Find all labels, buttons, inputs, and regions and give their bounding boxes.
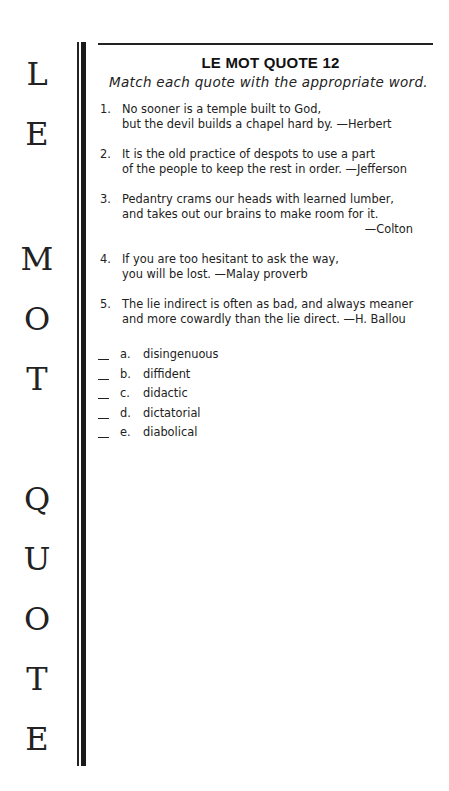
quote-number: 3. — [98, 192, 122, 237]
option-word: diffident — [143, 365, 190, 385]
option-letter: c. — [120, 384, 143, 404]
quote-item-3: 3. Pedantry crams our heads with learned… — [98, 192, 443, 237]
quote-line: If you are too hesitant to ask the way, — [122, 252, 443, 267]
quote-text: It is the old practice of despots to use… — [122, 147, 443, 177]
quote-line: It is the old practice of despots to use… — [122, 147, 443, 162]
instructions: Match each quote with the appropriate wo… — [94, 74, 443, 90]
answer-blank[interactable] — [98, 417, 109, 419]
option-word: disingenuous — [143, 345, 219, 365]
quote-line: No sooner is a temple built to God, — [122, 102, 443, 117]
quote-line: Pedantry crams our heads with learned lu… — [122, 192, 443, 207]
option-word: diabolical — [143, 423, 197, 443]
banner-letter-m: M — [0, 243, 74, 275]
quote-item-5: 5. The lie indirect is often as bad, and… — [98, 297, 443, 327]
option-a: a. disingenuous — [98, 345, 443, 365]
answer-blank[interactable] — [98, 378, 109, 380]
quote-number: 1. — [98, 102, 122, 132]
banner-letter-t: T — [0, 363, 74, 395]
option-d: d. dictatorial — [98, 404, 443, 424]
banner-letter-l: L — [0, 58, 74, 90]
banner-letter-u: U — [0, 543, 74, 575]
answer-blank[interactable] — [98, 397, 109, 399]
quote-attribution: —Colton — [122, 222, 443, 237]
banner-letter-q: Q — [0, 483, 74, 515]
vertical-divider-thick — [81, 42, 86, 766]
answer-blank[interactable] — [98, 436, 109, 438]
page-title: LE MOT QUOTE 12 — [98, 48, 443, 71]
option-letter: e. — [120, 423, 143, 443]
option-c: c. didactic — [98, 384, 443, 404]
quote-line: of the people to keep the rest in order.… — [122, 162, 443, 177]
quote-list: 1. No sooner is a temple built to God, b… — [98, 102, 443, 327]
option-e: e. diabolical — [98, 423, 443, 443]
banner-letter-t-2: T — [0, 663, 74, 695]
option-letter: d. — [120, 404, 143, 424]
vertical-divider-thin — [77, 42, 79, 766]
option-word: dictatorial — [143, 404, 201, 424]
top-horizontal-rule — [98, 43, 433, 45]
quote-line: and more cowardly than the lie direct. —… — [122, 312, 443, 327]
quote-item-2: 2. It is the old practice of despots to … — [98, 147, 443, 177]
answer-blank[interactable] — [98, 358, 109, 360]
banner-letter-o: O — [0, 303, 74, 335]
banner-letter-e-2: E — [0, 723, 74, 755]
banner-letter-o-2: O — [0, 603, 74, 635]
option-letter: b. — [120, 365, 143, 385]
quote-line: you will be lost. —Malay proverb — [122, 267, 443, 282]
quote-line: The lie indirect is often as bad, and al… — [122, 297, 443, 312]
banner-letter-e: E — [0, 118, 74, 150]
worksheet-content: LE MOT QUOTE 12 Match each quote with th… — [98, 48, 443, 443]
option-b: b. diffident — [98, 365, 443, 385]
quote-item-4: 4. If you are too hesitant to ask the wa… — [98, 252, 443, 282]
quote-line: and takes out our brains to make room fo… — [122, 207, 443, 222]
quote-number: 5. — [98, 297, 122, 327]
quote-number: 2. — [98, 147, 122, 177]
quote-text: No sooner is a temple built to God, but … — [122, 102, 443, 132]
quote-text: If you are too hesitant to ask the way, … — [122, 252, 443, 282]
quote-number: 4. — [98, 252, 122, 282]
option-letter: a. — [120, 345, 143, 365]
quote-text: The lie indirect is often as bad, and al… — [122, 297, 443, 327]
quote-text: Pedantry crams our heads with learned lu… — [122, 192, 443, 237]
answer-options: a. disingenuous b. diffident c. didactic… — [98, 345, 443, 443]
quote-item-1: 1. No sooner is a temple built to God, b… — [98, 102, 443, 132]
quote-line: but the devil builds a chapel hard by. —… — [122, 117, 443, 132]
side-banner-le-mot-quote: L E M O T Q U O T E — [0, 0, 74, 791]
option-word: didactic — [143, 384, 188, 404]
